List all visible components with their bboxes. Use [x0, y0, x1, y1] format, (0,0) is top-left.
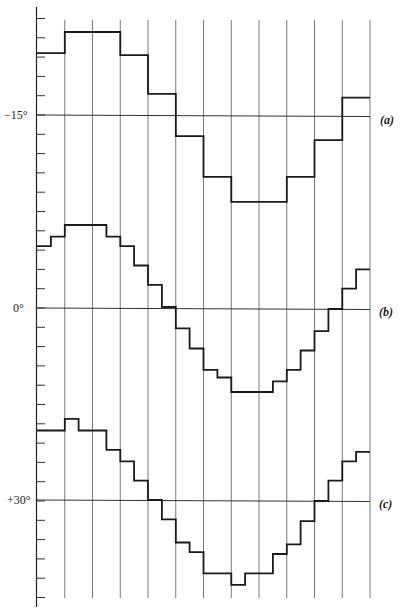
curve-label-b: (b)	[379, 305, 393, 319]
ref-label-a: −15°	[4, 108, 28, 122]
curve-label-c: (c)	[379, 497, 392, 511]
ref-label-b: 0°	[13, 301, 24, 315]
staircase-diagram: −15° 0° +30° (a) (b) (c)	[0, 0, 402, 616]
ref-label-c: +30°	[7, 493, 31, 507]
curve-label-a: (a)	[380, 113, 394, 127]
